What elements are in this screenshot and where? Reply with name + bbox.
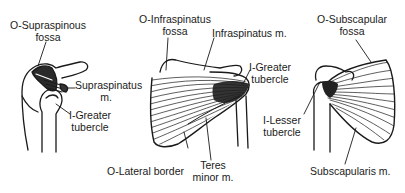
label-line: I-Greater (246, 62, 294, 74)
label-line: tubercle (259, 127, 305, 139)
label-line: tubercle (66, 122, 114, 134)
label-insertion-greater-tubercle-2: I-Greater tubercle (246, 62, 294, 85)
label-origin-subscapular-fossa: O-Subscapular fossa (311, 14, 393, 37)
label-line: O-Lateral border (107, 166, 184, 178)
label-line: minor m. (190, 172, 236, 184)
rotator-cuff-diagram: O-Supraspinous fossa Supraspinatus m. I-… (0, 0, 405, 193)
label-line: fossa (8, 32, 88, 44)
label-line: O-Infraspinatus (134, 14, 216, 26)
label-infraspinatus-muscle: Infraspinatus m. (212, 28, 287, 40)
label-origin-infraspinatus-fossa: O-Infraspinatus fossa (134, 14, 216, 37)
label-line: O-Supraspinous (8, 20, 88, 32)
label-line: Subscapularis m. (310, 166, 391, 178)
panel-subscapularis-drawing (304, 40, 396, 164)
label-subscapularis-muscle: Subscapularis m. (310, 166, 391, 178)
label-line: Supraspinatus (75, 80, 137, 92)
panel-infraspinatus-drawing (150, 38, 250, 160)
label-insertion-lesser-tubercle: I-Lesser tubercle (259, 115, 305, 138)
label-origin-lateral-border: O-Lateral border (107, 166, 184, 178)
label-line: I-Greater (66, 110, 114, 122)
label-line: m. (75, 92, 137, 104)
label-line: fossa (134, 26, 216, 38)
label-insertion-greater-tubercle-1: I-Greater tubercle (66, 110, 114, 133)
label-line: Infraspinatus m. (212, 28, 287, 40)
label-line: O-Subscapular (311, 14, 393, 26)
label-teres-minor-muscle: Teres minor m. (190, 160, 236, 183)
label-line: fossa (311, 26, 393, 38)
label-line: I-Lesser (259, 115, 305, 127)
label-line: Teres (190, 160, 236, 172)
label-origin-supraspinous-fossa: O-Supraspinous fossa (8, 20, 88, 43)
label-line: tubercle (246, 74, 294, 86)
label-supraspinatus-muscle: Supraspinatus m. (75, 80, 137, 103)
